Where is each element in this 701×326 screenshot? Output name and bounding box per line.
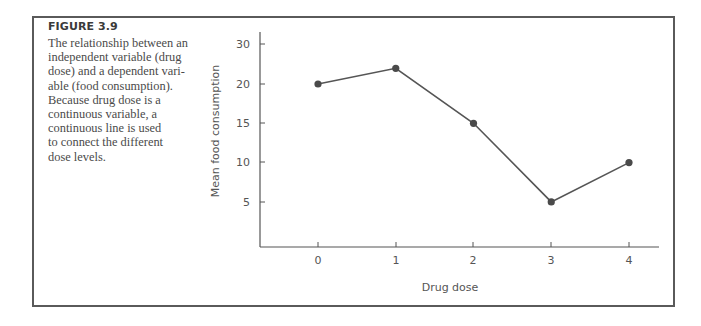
series-line	[318, 68, 629, 202]
data-point-marker	[548, 198, 555, 205]
y-tick-label: 30	[236, 38, 250, 51]
x-axis-title: Drug dose	[422, 281, 479, 294]
x-ticks	[318, 242, 629, 247]
y-ticks	[260, 44, 265, 202]
y-tick-label: 20	[236, 78, 250, 91]
y-tick-label: 5	[243, 196, 250, 209]
y-axis-title: Mean food consumption	[209, 65, 222, 198]
x-tick-label: 1	[393, 254, 400, 267]
x-tick-label: 4	[626, 254, 633, 267]
y-tick-label: 10	[236, 156, 250, 169]
line-chart: 30 20 15 10 5 0 1 2 3 4 Drug dose Mean f…	[0, 0, 701, 326]
data-point-marker	[392, 65, 399, 72]
x-tick-labels: 0 1 2 3 4	[315, 254, 633, 267]
y-tick-labels: 30 20 15 10 5	[236, 38, 250, 209]
data-point-marker	[625, 159, 632, 166]
x-tick-label: 2	[470, 254, 477, 267]
data-point-marker	[470, 120, 477, 127]
x-tick-label: 3	[548, 254, 555, 267]
x-tick-label: 0	[315, 254, 322, 267]
data-point-marker	[314, 80, 321, 87]
y-tick-label: 15	[236, 117, 250, 130]
